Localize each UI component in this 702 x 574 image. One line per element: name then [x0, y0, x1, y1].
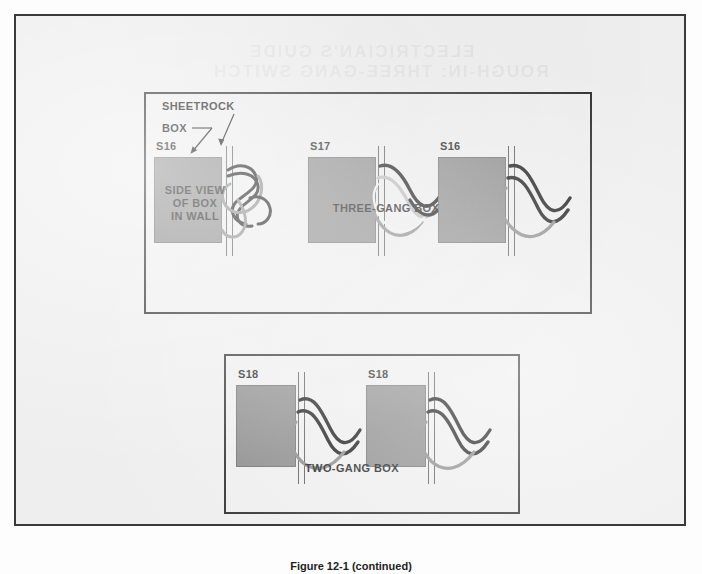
caption-two-gang-box: TWO-GANG BOX	[272, 462, 432, 475]
wire-bundle-wavy	[234, 368, 384, 498]
caption-three-gang-box: THREE-GANG BOX	[306, 202, 466, 215]
assembly-two-gang-2: S18	[364, 368, 514, 498]
figure-caption: Figure 12-1 (continued)	[0, 560, 702, 574]
caption-side-view: SIDE VIEW OF BOX IN WALL	[140, 184, 250, 223]
wire-bundle-wavy	[364, 368, 514, 498]
scanned-page-sheet: ELECTRICIAN'S GUIDE ROUGH-IN: THREE-GANG…	[14, 14, 686, 526]
figure-page: ELECTRICIAN'S GUIDE ROUGH-IN: THREE-GANG…	[0, 0, 702, 574]
assembly-two-gang-1: S18	[234, 368, 384, 498]
